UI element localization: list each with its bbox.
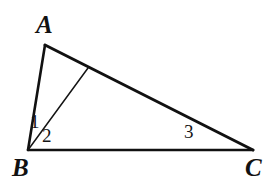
angle-label-1: 1 xyxy=(30,112,40,131)
segment-cevian-bd xyxy=(28,68,88,150)
vertex-label-b: B xyxy=(12,155,29,180)
angle-label-2: 2 xyxy=(42,126,52,145)
vertex-label-a: A xyxy=(36,12,53,37)
angle-label-3: 3 xyxy=(184,122,194,141)
vertex-label-c: C xyxy=(245,155,262,180)
geometry-figure: A B C 1 2 3 xyxy=(0,0,276,192)
segment-ac xyxy=(45,45,253,150)
